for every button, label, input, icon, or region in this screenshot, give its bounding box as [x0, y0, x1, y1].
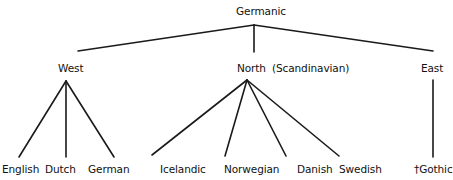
edge-germanic-west	[78, 25, 254, 51]
leaf-swedish: Swedish	[339, 163, 382, 175]
leaf-dutch: Dutch	[45, 163, 76, 175]
edge-north-swedish	[247, 80, 339, 156]
edge-west-german	[66, 81, 114, 157]
node-north: North	[237, 62, 266, 74]
node-germanic: Germanic	[236, 5, 286, 17]
edge-north-icelandic	[152, 80, 247, 155]
node-north-note: (Scandinavian)	[272, 62, 349, 74]
leaf-norwegian: Norwegian	[224, 163, 279, 175]
node-east: East	[421, 62, 443, 74]
edge-germanic-east	[254, 25, 433, 51]
leaf-german: German	[88, 163, 129, 175]
leaf-danish: Danish	[297, 163, 333, 175]
edge-west-english	[19, 81, 66, 157]
leaf-icelandic: Icelandic	[160, 163, 206, 175]
edge-north-norwegian	[225, 80, 247, 156]
leaf-english: English	[2, 163, 39, 175]
edge-north-danish	[247, 80, 286, 156]
leaf-gothic: †Gothic	[414, 163, 453, 175]
node-west: West	[58, 62, 83, 74]
